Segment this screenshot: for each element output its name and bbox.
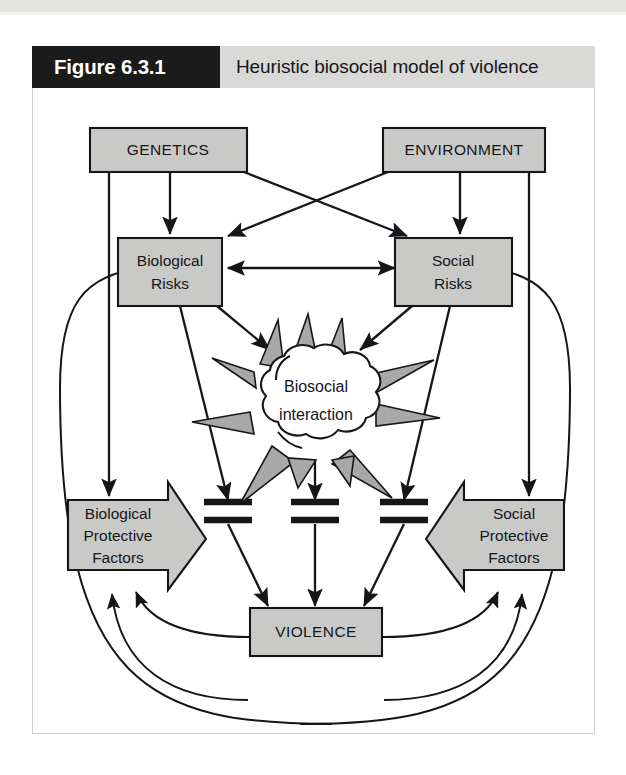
edge-genetics-to-social-risks bbox=[244, 172, 407, 236]
social-protective-factors-node: Social Protective Factors bbox=[426, 482, 564, 590]
biological-protective-label-line2: Protective bbox=[84, 527, 153, 544]
environment-label: ENVIRONMENT bbox=[405, 141, 524, 158]
genetics-label: GENETICS bbox=[127, 141, 209, 158]
biological-protective-label-line1: Biological bbox=[85, 505, 151, 522]
edge-biological-risks-to-left-blocker bbox=[180, 306, 228, 500]
biosocial-label-line2: interaction bbox=[279, 406, 353, 423]
figure-header: Figure 6.3.1 Heuristic biosocial model o… bbox=[32, 46, 595, 88]
violence-label: VIOLENCE bbox=[275, 623, 357, 640]
scan-artifact-band-secondary bbox=[0, 12, 626, 15]
edge-environment-to-biological-risks bbox=[228, 172, 388, 236]
burst-spike-bottom bbox=[288, 458, 316, 488]
violence-node: VIOLENCE bbox=[250, 608, 382, 656]
burst-spike-right-upper bbox=[372, 360, 434, 394]
edge-left-blocker-to-violence bbox=[228, 524, 268, 606]
social-protective-label-line3: Factors bbox=[488, 549, 540, 566]
figure-title: Heuristic biosocial model of violence bbox=[220, 46, 595, 88]
burst-spike-right bbox=[376, 404, 440, 426]
social-risks-label-line2: Risks bbox=[434, 275, 472, 292]
edge-violence-to-biological-protective-inner bbox=[136, 592, 250, 637]
biological-protective-label-line3: Factors bbox=[92, 549, 144, 566]
biological-risks-label-line2: Risks bbox=[151, 275, 189, 292]
social-risks-node: Social Risks bbox=[395, 238, 512, 306]
blocker-right bbox=[380, 502, 428, 520]
figure-page: Figure 6.3.1 Heuristic biosocial model o… bbox=[0, 0, 626, 775]
edge-violence-to-biological-protective-outer bbox=[112, 594, 248, 700]
burst-spike-left-upper bbox=[212, 358, 256, 388]
burst-spike-left bbox=[192, 412, 254, 434]
edge-violence-to-social-protective-inner bbox=[382, 592, 498, 637]
biological-risks-node: Biological Risks bbox=[118, 238, 222, 306]
edge-right-blocker-to-violence bbox=[364, 524, 404, 606]
burst-spike-bottom-center-right bbox=[332, 456, 354, 486]
biological-risks-label-line1: Biological bbox=[137, 252, 203, 269]
edge-social-risks-to-right-blocker bbox=[404, 306, 450, 500]
biological-protective-factors-node: Biological Protective Factors bbox=[68, 482, 206, 590]
burst-spike-bottom-left bbox=[240, 446, 294, 504]
edge-social-risks-to-biosocial bbox=[360, 306, 412, 350]
edge-violence-to-social-protective-outer bbox=[384, 594, 522, 700]
social-risks-label-line1: Social bbox=[432, 252, 474, 269]
scan-artifact-band bbox=[0, 0, 626, 12]
blocker-left bbox=[204, 502, 252, 520]
blocker-center bbox=[291, 502, 339, 520]
genetics-node: GENETICS bbox=[90, 128, 247, 172]
figure-number-tag: Figure 6.3.1 bbox=[32, 46, 220, 88]
environment-node: ENVIRONMENT bbox=[383, 128, 545, 172]
edge-biological-risks-to-biosocial bbox=[217, 306, 270, 350]
biosocial-model-diagram: Biosocial interaction Biological Protect… bbox=[32, 88, 595, 734]
social-protective-label-line1: Social bbox=[493, 505, 535, 522]
biosocial-label-line1: Biosocial bbox=[284, 378, 348, 395]
social-protective-label-line2: Protective bbox=[480, 527, 549, 544]
